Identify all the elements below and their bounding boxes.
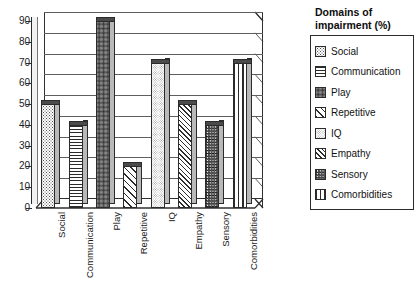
bar-side-face: [55, 100, 60, 204]
y-tick-mark: [26, 42, 32, 43]
legend-item-label: Repetitive: [331, 107, 375, 118]
x-tick-label-slot: Empathy: [184, 212, 196, 290]
legend-item[interactable]: Communication: [315, 62, 410, 83]
y-tick-mark: [26, 104, 32, 105]
bar-front-face: [96, 21, 110, 208]
bar-side-face: [110, 17, 115, 204]
bar[interactable]: [178, 95, 197, 208]
plot-area: [36, 12, 263, 209]
y-tick-mark: [26, 83, 32, 84]
bar-top-face: [41, 100, 60, 105]
x-tick-label: Repetitive: [139, 212, 149, 254]
bar-front-face: [178, 104, 192, 208]
x-tick-label-slot: Social: [47, 212, 59, 290]
legend-item[interactable]: IQ: [315, 123, 410, 144]
legend-item-label: Empathy: [331, 148, 370, 159]
x-tick-label-slot: Sensory: [211, 212, 223, 290]
cropped-caption-strip: [4, 285, 184, 290]
legend-swatch-comorbidities: [315, 189, 326, 200]
bar-side-face: [83, 120, 88, 203]
bar-top-face: [205, 121, 224, 126]
x-tick-label: Comorbidities: [249, 212, 259, 270]
bar-side-face: [219, 120, 224, 203]
bar[interactable]: [69, 116, 88, 208]
y-tick-mark: [26, 63, 32, 64]
legend-item[interactable]: Sensory: [315, 164, 410, 185]
legend-swatch-social: [315, 46, 326, 57]
legend-swatch-repetitive: [315, 107, 326, 118]
bar-side-face: [165, 58, 170, 203]
bar-top-face: [69, 121, 88, 126]
bar-front-face: [69, 125, 83, 208]
x-tick-label: Sensory: [221, 212, 231, 247]
bar-front-face: [205, 125, 219, 208]
x-tick-label: Play: [112, 212, 122, 230]
chart-page: 0102030405060708090: [0, 0, 419, 291]
bar-front-face: [41, 104, 55, 208]
legend-item[interactable]: Social: [315, 41, 410, 62]
y-tick-mark: [26, 21, 32, 22]
x-tick-label-slot: Play: [102, 212, 114, 290]
legend-swatch-iq: [315, 128, 326, 139]
bar-top-face: [96, 17, 115, 22]
bar-top-face: [151, 59, 170, 64]
x-tick-label: Communication: [85, 212, 95, 278]
legend-item-label: IQ: [331, 128, 342, 139]
legend-item-label: Sensory: [331, 169, 368, 180]
bar[interactable]: [41, 95, 60, 208]
legend-item[interactable]: Empathy: [315, 144, 410, 165]
x-tick-label: Empathy: [194, 212, 204, 250]
bar-front-face: [151, 63, 165, 208]
legend-swatch-communication: [315, 66, 326, 77]
x-tick-label-slot: Repetitive: [129, 212, 141, 290]
legend-title: Domains of impairment (%): [310, 6, 416, 31]
bar-side-face: [192, 100, 197, 204]
legend-item-label: Communication: [331, 66, 400, 77]
bar-top-face: [123, 162, 142, 167]
x-tick-label-slot: IQ: [157, 212, 169, 290]
x-tick-label-slot: Comorbidities: [239, 212, 251, 290]
legend-title-line-1: Domains of: [315, 6, 416, 19]
x-axis-tick-labels: SocialCommunicationPlayRepetitiveIQEmpat…: [36, 212, 271, 291]
y-tick-mark: [26, 187, 32, 188]
y-tick-mark: [26, 166, 32, 167]
bar[interactable]: [96, 12, 115, 208]
legend-item-label: Play: [331, 87, 350, 98]
legend-item-label: Comorbidities: [331, 189, 392, 200]
bar-side-face: [247, 58, 252, 203]
bar-side-face: [137, 162, 142, 204]
legend-item[interactable]: Comorbidities: [315, 185, 410, 206]
x-tick-label: IQ: [167, 212, 177, 222]
bar[interactable]: [151, 54, 170, 208]
bar-front-face: [233, 63, 247, 208]
bar[interactable]: [123, 157, 142, 208]
bar[interactable]: [205, 116, 224, 208]
legend: Domains of impairment (%) SocialCommunic…: [310, 6, 416, 210]
bar[interactable]: [233, 54, 252, 208]
bar-chart: 0102030405060708090: [0, 0, 305, 291]
legend-item-label: Social: [331, 46, 358, 57]
legend-swatch-sensory: [315, 169, 326, 180]
legend-item[interactable]: Repetitive: [315, 103, 410, 124]
x-tick-label-slot: Communication: [75, 212, 87, 290]
y-tick-mark: [26, 208, 32, 209]
legend-box: SocialCommunicationPlayRepetitiveIQEmpat…: [310, 35, 414, 210]
legend-swatch-empathy: [315, 148, 326, 159]
bar-top-face: [233, 59, 252, 64]
x-tick-label: Social: [57, 212, 67, 238]
y-tick-mark: [26, 125, 32, 126]
y-tick-mark: [26, 146, 32, 147]
bar-group: [36, 12, 263, 208]
legend-item[interactable]: Play: [315, 82, 410, 103]
legend-swatch-play: [315, 87, 326, 98]
legend-title-line-2: impairment (%): [315, 19, 416, 32]
bar-top-face: [178, 100, 197, 105]
bar-front-face: [123, 166, 137, 208]
